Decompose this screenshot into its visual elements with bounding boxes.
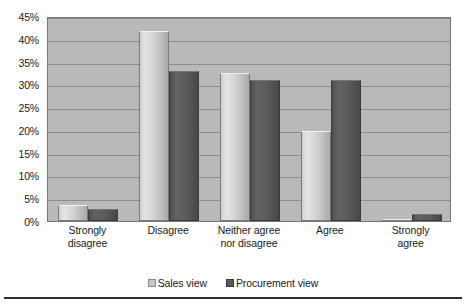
x-tick-label-line: Strongly: [47, 224, 128, 237]
bar-procurement: [331, 80, 361, 221]
x-tick-label: Neither agreenor disagree: [209, 224, 290, 249]
y-tick-label: 20%: [19, 125, 39, 137]
bar-chart-figure: 0%5%10%15%20%25%30%35%40%45% Stronglydis…: [0, 0, 466, 307]
bar-group: [210, 18, 291, 221]
x-tick-label: Stronglydisagree: [47, 224, 128, 249]
y-tick-label: 30%: [19, 79, 39, 91]
y-tick-label: 25%: [19, 102, 39, 114]
legend-label: Procurement view: [236, 277, 318, 289]
bar-sales: [382, 219, 412, 221]
y-tick-label: 45%: [19, 11, 39, 23]
x-tick-label: Disagree: [128, 224, 209, 237]
bar-sales: [220, 73, 250, 222]
x-tick-label: Agree: [289, 224, 370, 237]
y-tick-label: 0%: [24, 216, 39, 228]
legend-swatch-icon: [226, 279, 234, 287]
y-tick-label: 5%: [24, 193, 39, 205]
bars-layer: [48, 18, 450, 221]
y-tick-label: 10%: [19, 170, 39, 182]
bar-procurement: [250, 80, 280, 221]
x-tick-label-line: Disagree: [128, 224, 209, 237]
bar-group: [129, 18, 210, 221]
legend-entry: Procurement view: [226, 277, 318, 289]
bar-sales: [139, 31, 169, 221]
bar-group: [290, 18, 371, 221]
bottom-divider: [4, 297, 462, 299]
legend-entry: Sales view: [148, 277, 207, 289]
bar-procurement: [169, 71, 199, 221]
y-axis: 0%5%10%15%20%25%30%35%40%45%: [0, 17, 44, 222]
legend-swatch-icon: [148, 279, 156, 287]
chart-legend: Sales viewProcurement view: [0, 277, 466, 289]
y-tick-label: 40%: [19, 34, 39, 46]
bar-group: [48, 18, 129, 221]
x-tick-label-line: Strongly: [370, 224, 451, 237]
bar-sales: [58, 205, 88, 221]
x-axis: StronglydisagreeDisagreeNeither agreenor…: [47, 224, 451, 264]
plot-area: [47, 17, 451, 222]
y-tick-label: 15%: [19, 148, 39, 160]
bar-sales: [301, 131, 331, 221]
bar-procurement: [412, 214, 442, 221]
x-tick-label: Stronglyagree: [370, 224, 451, 249]
bar-procurement: [88, 209, 118, 221]
x-tick-label-line: Agree: [289, 224, 370, 237]
x-tick-label-line: nor disagree: [209, 237, 290, 250]
legend-label: Sales view: [158, 277, 207, 289]
y-tick-label: 35%: [19, 57, 39, 69]
x-tick-label-line: Neither agree: [209, 224, 290, 237]
x-tick-label-line: agree: [370, 237, 451, 250]
x-tick-label-line: disagree: [47, 237, 128, 250]
bar-group: [371, 18, 452, 221]
